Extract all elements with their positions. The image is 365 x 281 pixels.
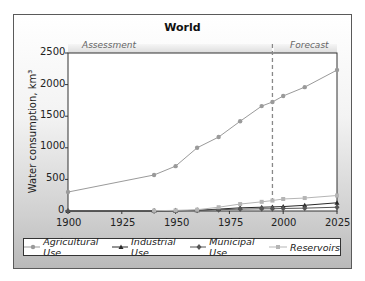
square-marker-icon [269, 243, 287, 251]
legend-label: Reservoirs [290, 242, 340, 253]
legend-label: Agricultural Use [43, 236, 112, 258]
diamond-marker-icon [190, 243, 206, 251]
legend-label: Municipal Use [209, 236, 269, 258]
legend-item-municipal: Municipal Use [190, 236, 269, 258]
legend-item-reservoirs: Reservoirs [269, 242, 340, 253]
legend-item-agricultural: Agricultural Use [24, 236, 112, 258]
triangle-marker-icon [112, 243, 128, 251]
legend-item-industrial: Industrial Use [112, 236, 190, 258]
circle-marker-icon [24, 243, 40, 251]
legend: Agricultural Use Industrial Use Municipa… [23, 238, 341, 256]
legend-label: Industrial Use [131, 236, 190, 258]
